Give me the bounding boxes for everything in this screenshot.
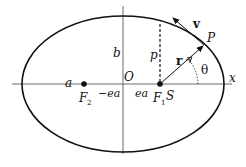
label-origin: O bbox=[124, 70, 134, 84]
label-sun: S bbox=[166, 89, 174, 103]
label-b: b bbox=[113, 46, 121, 60]
label-focus2-sub: 2 bbox=[87, 99, 91, 107]
theta-angle-arc bbox=[189, 60, 198, 84]
label-p: p bbox=[150, 48, 158, 62]
label-focus1-sub: 1 bbox=[161, 99, 165, 107]
label-x-axis: x bbox=[229, 71, 236, 85]
focus2-dot bbox=[81, 81, 87, 87]
label-theta: θ bbox=[201, 63, 208, 77]
ellipse-orbit-diagram: a b O p −ea ea F 2 F 1 S P r v θ x bbox=[0, 0, 246, 167]
label-velocity: v bbox=[192, 17, 201, 31]
label-a: a bbox=[65, 76, 72, 90]
label-ea: ea bbox=[135, 87, 148, 100]
label-neg-ea: −ea bbox=[98, 87, 120, 100]
label-radius-vector: r bbox=[176, 54, 183, 68]
label-planet: P bbox=[206, 31, 216, 45]
focus1-dot bbox=[157, 81, 163, 87]
